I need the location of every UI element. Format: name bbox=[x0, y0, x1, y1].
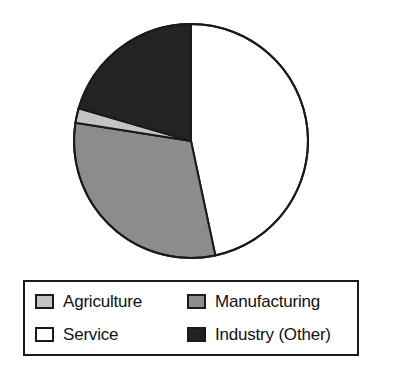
legend-label-agriculture: Agriculture bbox=[63, 293, 142, 310]
legend-label-industry-other: Industry (Other) bbox=[215, 326, 331, 343]
legend-item-manufacturing[interactable]: Manufacturing bbox=[187, 293, 357, 310]
legend-item-agriculture[interactable]: Agriculture bbox=[35, 293, 187, 310]
pie-slices-group bbox=[74, 24, 308, 258]
pie-chart-svg bbox=[0, 0, 394, 272]
legend-label-manufacturing: Manufacturing bbox=[215, 293, 320, 310]
legend-grid: Agriculture Manufacturing Service Indust… bbox=[25, 282, 357, 354]
pie-chart-area bbox=[0, 0, 394, 272]
pie-chart-figure: Agriculture Manufacturing Service Indust… bbox=[0, 0, 394, 375]
swatch-agriculture-icon bbox=[35, 294, 54, 309]
legend-item-industry-other[interactable]: Industry (Other) bbox=[187, 326, 357, 343]
legend-item-service[interactable]: Service bbox=[35, 326, 187, 343]
legend-label-service: Service bbox=[63, 326, 118, 343]
swatch-service-icon bbox=[35, 327, 54, 342]
swatch-industry-other-icon bbox=[187, 327, 206, 342]
chart-legend: Agriculture Manufacturing Service Indust… bbox=[23, 280, 359, 356]
swatch-manufacturing-icon bbox=[187, 294, 206, 309]
